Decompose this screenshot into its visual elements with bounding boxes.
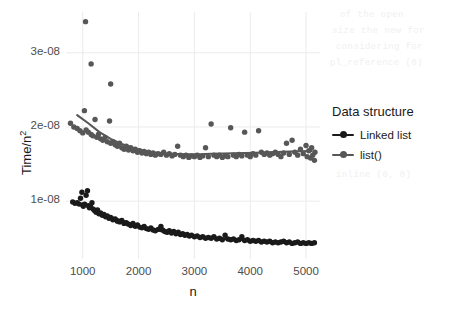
data-point	[208, 121, 213, 126]
data-point	[228, 125, 233, 130]
data-point	[203, 145, 208, 150]
data-point	[242, 129, 247, 134]
data-point	[85, 188, 90, 193]
data-point	[89, 200, 94, 205]
legend-key-icon	[332, 129, 354, 141]
data-point	[88, 61, 93, 66]
data-point	[225, 154, 230, 159]
figure-root: of the opensize the new forconsidering f…	[0, 0, 450, 312]
legend-item-list: list()	[332, 146, 414, 163]
data-point	[78, 195, 83, 200]
legend: Data structure Linked listlist()	[332, 104, 414, 166]
data-point	[83, 19, 88, 24]
data-point	[312, 158, 317, 163]
data-point	[175, 144, 180, 149]
legend-label: Linked list	[360, 129, 411, 141]
data-point	[295, 152, 300, 157]
data-point	[92, 117, 97, 122]
data-point	[303, 143, 308, 148]
data-point	[312, 149, 317, 154]
legend-key-icon	[332, 149, 354, 161]
data-point	[82, 108, 87, 113]
data-point	[284, 141, 289, 146]
data-point	[107, 118, 112, 123]
data-point	[309, 145, 314, 150]
data-point	[256, 128, 261, 133]
legend-label: list()	[360, 149, 382, 161]
data-point	[108, 81, 113, 86]
legend-title: Data structure	[332, 104, 414, 119]
legend-item-linked-list: Linked list	[332, 126, 414, 143]
data-point	[289, 138, 294, 143]
